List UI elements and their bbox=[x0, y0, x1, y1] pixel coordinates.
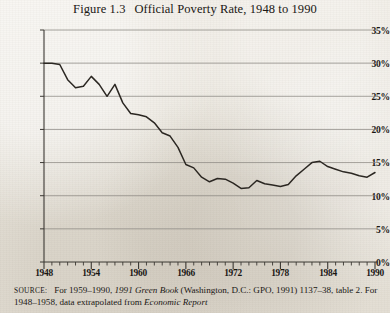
source-note: SOURCE: For 1959–1990, 1991 Green Book (… bbox=[14, 285, 386, 308]
source-note-part1: For 1959–1990, bbox=[54, 285, 114, 295]
source-note-part2: (Washington, D.C.: GPO, 1991) bbox=[178, 285, 297, 295]
chart-gridlines bbox=[44, 30, 378, 229]
source-note-italic-green-book: 1991 Green Book bbox=[115, 285, 179, 295]
poverty-rate-line-chart bbox=[0, 0, 390, 313]
source-note-italic-economic-report: Economic Report bbox=[144, 297, 207, 307]
figure-container: Figure 1.3Official Poverty Rate, 1948 to… bbox=[0, 0, 390, 313]
poverty-rate-series-line bbox=[44, 63, 375, 188]
x-axis-ticks bbox=[44, 262, 375, 269]
y-axis-ticks bbox=[40, 30, 44, 262]
source-note-label: SOURCE: bbox=[14, 286, 47, 295]
